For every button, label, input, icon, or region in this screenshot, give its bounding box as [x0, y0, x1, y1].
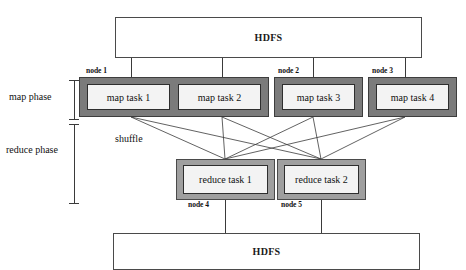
- mapreduce-diagram: HDFS map task 1 map task 2 map task 3 ma…: [0, 0, 466, 270]
- wire-shuffle-m1-r1: [131, 117, 225, 159]
- wire-shuffle-m3-r1: [225, 117, 313, 159]
- node-2-caption: node 2: [278, 66, 299, 75]
- map-task-2-label: map task 2: [198, 92, 241, 103]
- reduce-task-2-box: reduce task 2: [284, 165, 359, 194]
- map-task-3-box: map task 3: [282, 84, 355, 110]
- reduce-task-1-label: reduce task 1: [199, 174, 252, 185]
- map-task-1-box: map task 1: [87, 84, 170, 110]
- wire-shuffle-m4-r1: [225, 117, 405, 159]
- map-task-2-box: map task 2: [178, 84, 261, 110]
- wire-shuffle-m3-r2: [313, 117, 321, 159]
- reduce-task-2-label: reduce task 2: [295, 174, 348, 185]
- hdfs-top-box: HDFS: [115, 17, 422, 58]
- wire-shuffle-m4-r2: [321, 117, 405, 159]
- wire-shuffle-m2-r2: [222, 117, 321, 159]
- map-node-2: map task 3: [274, 77, 363, 117]
- wire-shuffle-m2-r1: [222, 117, 225, 159]
- node-1-caption: node 1: [86, 66, 107, 75]
- map-phase-label: map phase: [9, 91, 52, 102]
- map-task-4-label: map task 4: [391, 92, 434, 103]
- node-5-caption: node 5: [281, 200, 302, 209]
- node-3-caption: node 3: [372, 66, 393, 75]
- map-node-3: map task 4: [368, 77, 457, 117]
- map-task-3-label: map task 3: [297, 92, 340, 103]
- node-4-caption: node 4: [188, 200, 209, 209]
- map-task-1-label: map task 1: [107, 92, 150, 103]
- hdfs-bottom-box: HDFS: [113, 233, 420, 270]
- reduce-node-5: reduce task 2: [277, 159, 366, 200]
- wire-shuffle-m1-r2: [131, 117, 321, 159]
- map-node-1: map task 1 map task 2: [79, 77, 269, 117]
- reduce-phase-label: reduce phase: [6, 144, 58, 155]
- shuffle-label: shuffle: [115, 133, 143, 144]
- hdfs-bottom-label: HDFS: [253, 246, 281, 257]
- reduce-node-4: reduce task 1: [176, 159, 275, 200]
- map-task-4-box: map task 4: [376, 84, 449, 110]
- reduce-task-1-box: reduce task 1: [183, 165, 268, 194]
- hdfs-top-label: HDFS: [255, 32, 283, 43]
